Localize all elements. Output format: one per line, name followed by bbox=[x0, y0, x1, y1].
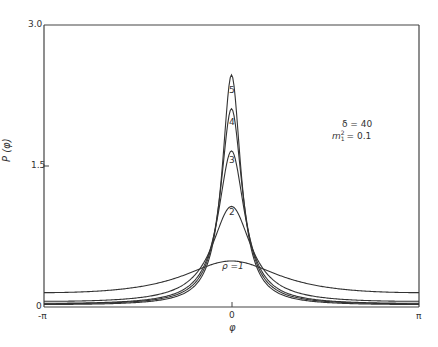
annotation-mass-subsup: 21 bbox=[341, 130, 345, 142]
annotation-delta: δ = 40 bbox=[332, 120, 372, 130]
x-axis-title: φ bbox=[229, 323, 236, 333]
curve-label-1: ρ =1 bbox=[222, 262, 244, 271]
curve-rho-3 bbox=[44, 151, 419, 303]
curve-label-3: 3 bbox=[229, 156, 235, 165]
x-tick-neg-pi: -π bbox=[38, 312, 47, 321]
curve-label-4: 4 bbox=[229, 118, 235, 127]
annotation-parameters: δ = 40 m21= 0.1 bbox=[332, 120, 372, 142]
annotation-mass: m21= 0.1 bbox=[332, 130, 372, 142]
y-tick-1-5: 1.5 bbox=[31, 161, 45, 170]
x-tick-pi: π bbox=[416, 312, 421, 321]
curve-rho-2 bbox=[44, 206, 419, 301]
plot-area bbox=[0, 0, 438, 347]
y-tick-3-0: 3.0 bbox=[28, 20, 42, 29]
x-tick-0: 0 bbox=[229, 311, 235, 320]
y-axis-title: P (φ) bbox=[2, 138, 12, 162]
curve-label-5: 5 bbox=[229, 86, 235, 95]
annotation-mass-symbol: m bbox=[332, 130, 341, 140]
curve-label-2: 2 bbox=[229, 208, 235, 217]
annotation-mass-value: = 0.1 bbox=[347, 130, 372, 140]
y-tick-0: 0 bbox=[36, 302, 42, 311]
